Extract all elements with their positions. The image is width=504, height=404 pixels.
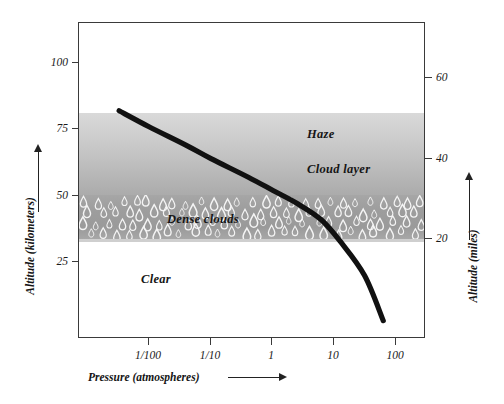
left-axis-title: Altitude (kilometers): [24, 161, 36, 331]
bottom-axis-arrow-shaft: [228, 377, 280, 378]
right-tick-mark: [425, 77, 432, 78]
left-tick-label: 75: [28, 122, 68, 134]
bottom-tick-label: 1: [244, 349, 298, 361]
right-axis-arrow-head: [465, 172, 473, 180]
right-axis-arrow-shaft: [469, 178, 470, 240]
bottom-tick-mark: [210, 338, 211, 345]
bottom-tick-label: 10: [306, 349, 360, 361]
left-tick-mark: [72, 62, 79, 63]
right-tick-mark: [425, 158, 432, 159]
left-tick-label: 100: [28, 56, 68, 68]
bottom-axis-arrow-head: [279, 373, 287, 381]
bottom-tick-mark: [148, 338, 149, 345]
plot-area: Haze Cloud layer Dense clouds Clear: [78, 22, 425, 338]
right-tick-mark: [425, 238, 432, 239]
bottom-tick-label: 100: [368, 349, 422, 361]
left-tick-mark: [72, 261, 79, 262]
right-tick-label: 60: [436, 71, 476, 83]
left-axis-arrow-shaft: [38, 150, 39, 212]
bottom-tick-label: 1/10: [183, 349, 237, 361]
left-tick-mark: [72, 195, 79, 196]
right-tick-label: 40: [436, 152, 476, 164]
bottom-tick-mark: [395, 338, 396, 345]
left-tick-mark: [72, 128, 79, 129]
left-axis-arrow-head: [34, 144, 42, 152]
bottom-tick-mark: [333, 338, 334, 345]
bottom-tick-label: 1/100: [121, 349, 175, 361]
venus-atmosphere-figure: Haze Cloud layer Dense clouds Clear 1007…: [0, 0, 504, 404]
pressure-altitude-curve: [79, 23, 425, 338]
bottom-axis-title: Pressure (atmospheres): [88, 371, 200, 383]
bottom-tick-mark: [271, 338, 272, 345]
